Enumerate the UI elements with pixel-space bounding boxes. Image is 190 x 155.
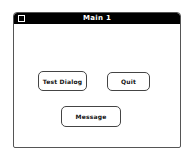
message-button[interactable]: Message (61, 106, 121, 127)
test-dialog-button[interactable]: Test Dialog (38, 71, 87, 91)
main-window: Main 1 Test Dialog Quit Message (13, 12, 181, 148)
title-bar[interactable]: Main 1 (14, 13, 180, 24)
quit-button[interactable]: Quit (107, 72, 150, 91)
window-title: Main 1 (14, 13, 180, 24)
